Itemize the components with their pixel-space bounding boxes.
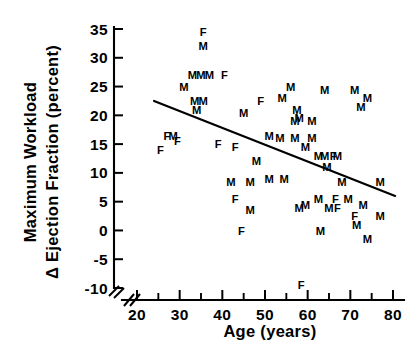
y-tick-label: -5 — [93, 251, 108, 268]
y-tick-label: 20 — [90, 107, 108, 124]
x-tick-label: 60 — [299, 306, 317, 323]
x-tick-label: 80 — [384, 306, 402, 323]
data-point-m: M — [245, 176, 254, 188]
y-tick-marks — [114, 29, 123, 288]
x-axis-title: Age (years) — [223, 322, 316, 340]
scatter-plot: -10-505101520253035 20304050607080 MMMMM… — [0, 0, 420, 353]
data-point-f: F — [221, 69, 228, 81]
data-point-m: M — [376, 210, 385, 222]
x-tick-label: 50 — [256, 306, 274, 323]
data-point-f: F — [330, 150, 337, 162]
y-axis-group: -10-505101520253035 — [84, 21, 123, 297]
regression-line — [154, 101, 395, 196]
data-point-m: M — [192, 104, 201, 116]
y-tick-label: -10 — [84, 280, 108, 297]
y-axis-title-line1: Maximum Workload — [21, 82, 39, 242]
data-point-m: M — [337, 176, 346, 188]
data-point-m: M — [179, 81, 188, 93]
data-point-f: F — [163, 130, 170, 142]
x-tick-label: 30 — [171, 306, 189, 323]
data-point-m: M — [265, 173, 274, 185]
data-point-m: M — [239, 107, 248, 119]
y-tick-label: 5 — [99, 193, 108, 210]
data-point-m: M — [277, 92, 286, 104]
data-point-f: F — [232, 141, 239, 153]
y-tick-labels: -10-505101520253035 — [84, 21, 108, 297]
data-point-layer: MMMMMMMMMMMMMMMMMMMMMMMMMMMMMMMMMMMMMMMM… — [157, 26, 385, 291]
data-point-m: M — [290, 115, 299, 127]
data-point-f: F — [232, 193, 239, 205]
data-point-m: M — [344, 193, 353, 205]
x-axis-group: 20304050607080 — [122, 290, 404, 323]
y-tick-label: 35 — [90, 21, 108, 38]
data-point-m: M — [316, 225, 325, 237]
data-point-m: M — [290, 132, 299, 144]
data-point-f: F — [257, 95, 264, 107]
data-point-m: M — [294, 202, 303, 214]
x-tick-label: 40 — [213, 306, 231, 323]
y-tick-label: 30 — [90, 49, 108, 66]
data-point-m: M — [280, 173, 289, 185]
data-point-m: M — [322, 161, 331, 173]
data-point-m: M — [286, 81, 295, 93]
data-point-f: F — [200, 26, 207, 38]
data-point-m: M — [265, 130, 274, 142]
chart-figure: -10-505101520253035 20304050607080 MMMMM… — [0, 0, 420, 353]
data-point-m: M — [245, 204, 254, 216]
y-tick-label: 25 — [90, 78, 108, 95]
y-tick-label: 0 — [99, 222, 108, 239]
data-point-m: M — [376, 176, 385, 188]
data-point-f: F — [334, 202, 341, 214]
y-axis-title-line2: Δ Ejection Fraction (percent) — [43, 45, 61, 279]
data-point-m: M — [320, 84, 329, 96]
data-point-m: M — [226, 176, 235, 188]
data-point-m: M — [205, 69, 214, 81]
data-point-m: M — [198, 40, 207, 52]
data-point-m: M — [275, 132, 284, 144]
data-point-m: M — [350, 84, 359, 96]
data-point-m: M — [356, 101, 365, 113]
data-point-f: F — [238, 225, 245, 237]
data-point-m: M — [358, 199, 367, 211]
data-point-f: F — [351, 210, 358, 222]
x-tick-label: 70 — [341, 306, 359, 323]
data-point-m: M — [314, 193, 323, 205]
data-point-m: M — [320, 150, 329, 162]
data-point-f: F — [157, 144, 164, 156]
data-point-f: F — [174, 135, 181, 147]
data-point-m: M — [307, 115, 316, 127]
data-point-m: M — [301, 141, 310, 153]
y-tick-label: 10 — [90, 164, 108, 181]
x-tick-marks — [137, 290, 393, 300]
data-point-m: M — [363, 233, 372, 245]
data-point-m: M — [252, 155, 261, 167]
data-point-f: F — [298, 279, 305, 291]
data-point-f: F — [215, 138, 222, 150]
x-tick-labels: 20304050607080 — [128, 306, 402, 323]
x-tick-label: 20 — [128, 306, 146, 323]
y-tick-label: 15 — [90, 136, 108, 153]
